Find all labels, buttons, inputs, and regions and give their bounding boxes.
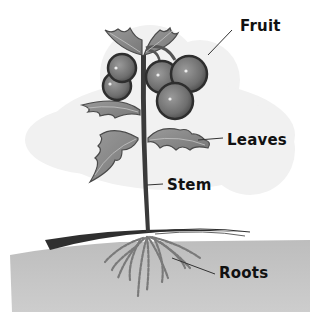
leaves-label: Leaves	[227, 131, 287, 149]
plant-parts-diagram: Fruit Leaves Stem Roots	[0, 0, 313, 325]
fruit-label: Fruit	[240, 17, 281, 35]
stem-label: Stem	[167, 176, 212, 194]
roots-label: Roots	[219, 264, 268, 282]
